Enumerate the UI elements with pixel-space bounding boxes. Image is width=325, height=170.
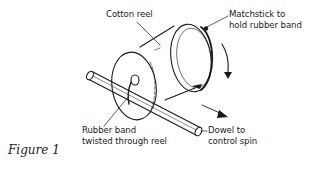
leader-matchstick [207,16,228,27]
label-cotton-reel: Cotton reel [106,9,153,20]
label-rubber-band-line2: twisted through reel [82,136,167,147]
label-matchstick-line1: Matchstick to [229,9,302,20]
reel-front-flange [107,49,160,122]
label-dowel: Dowel to control spin [208,125,257,146]
label-dowel-line1: Dowel to [208,125,257,136]
label-matchstick-line2: hold rubber band [229,20,302,31]
rotation-arrow [222,44,232,79]
label-rubber-band: Rubber band twisted through reel [82,125,167,146]
label-rubber-band-line1: Rubber band [82,125,167,136]
label-dowel-line2: control spin [208,136,257,147]
figure-caption: Figure 1 [8,143,60,157]
motion-arrow [202,105,228,118]
reel-back-flange [166,22,215,95]
label-matchstick: Matchstick to hold rubber band [229,9,302,30]
label-cotton-reel-line1: Cotton reel [106,9,153,20]
